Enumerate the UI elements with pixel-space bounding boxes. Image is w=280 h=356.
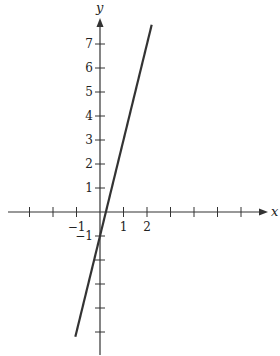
- y-axis-label: y: [95, 0, 104, 15]
- x-axis-label: x: [271, 204, 279, 219]
- y-axis-arrow-icon: [97, 18, 104, 27]
- y-tick-label: 6: [85, 61, 93, 75]
- ticks: [30, 44, 242, 332]
- x-tick-label: 2: [143, 220, 151, 234]
- y-tick-label: 7: [85, 37, 93, 51]
- x-tick-label: 1: [120, 220, 128, 234]
- y-tick-label: 5: [85, 85, 93, 99]
- y-tick-label: 3: [85, 133, 93, 147]
- y-tick-label: 2: [85, 157, 93, 171]
- y-tick-label: 4: [85, 109, 93, 123]
- axes: [8, 18, 268, 355]
- line-graph: −112−11234567 x y: [0, 0, 280, 356]
- y-tick-label: 1: [85, 181, 93, 195]
- x-axis-arrow-icon: [259, 209, 268, 216]
- y-tick-label: −1: [75, 229, 93, 243]
